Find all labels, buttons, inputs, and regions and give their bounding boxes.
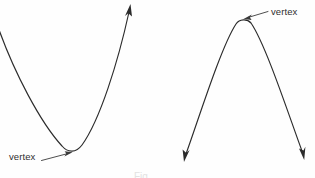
right-vertex-leader-group	[244, 12, 269, 21]
upward-parabola-group	[0, 4, 132, 151]
parabola-vertex-figure: vertex vertex Fig.	[0, 0, 315, 178]
left-vertex-label: vertex	[9, 151, 35, 162]
right-vertex-leader-line	[248, 12, 268, 18]
left-vertex-leader-group	[42, 151, 73, 160]
downward-parabola-group	[183, 20, 306, 162]
left-vertex-leader-line	[42, 154, 69, 161]
downward-parabola-curve	[186, 20, 302, 154]
figure-caption-partial: Fig.	[134, 171, 192, 178]
figure-canvas	[0, 0, 315, 178]
downward-parabola-left-arrowhead-icon	[183, 150, 190, 163]
right-vertex-label: vertex	[271, 6, 297, 17]
upward-parabola-curve	[0, 12, 129, 151]
right-vertex-leader-arrowhead-icon	[244, 15, 252, 20]
downward-parabola-right-arrowhead-icon	[299, 147, 305, 160]
